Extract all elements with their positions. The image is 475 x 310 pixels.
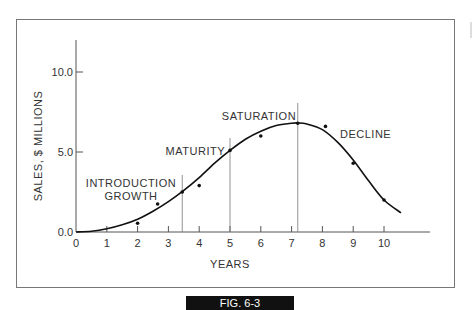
- y-tick-label: 0.0: [58, 226, 73, 238]
- y-tick-label: 5.0: [58, 146, 73, 158]
- data-point: [259, 134, 263, 138]
- life-cycle-chart: 0123456789100.05.010.0YEARSINTRODUCTIONG…: [0, 0, 475, 310]
- data-point: [228, 149, 232, 153]
- x-tick-label: 5: [227, 237, 233, 249]
- data-point: [382, 198, 386, 202]
- x-tick-label: 3: [165, 237, 171, 249]
- x-tick-label: 2: [135, 237, 141, 249]
- figure-caption: FIG. 6-3: [186, 296, 294, 310]
- x-tick-label: 7: [289, 237, 295, 249]
- x-tick-label: 1: [104, 237, 110, 249]
- stage-label-maturity: MATURITY: [166, 145, 226, 157]
- data-point: [324, 125, 328, 129]
- data-point: [197, 184, 201, 188]
- x-tick-label: 4: [196, 237, 202, 249]
- data-point: [296, 121, 300, 125]
- x-tick-label: 6: [258, 237, 264, 249]
- data-point: [180, 190, 184, 194]
- y-axis-label: SALES, $ MILLIONS: [32, 91, 44, 202]
- x-tick-label: 10: [378, 237, 390, 249]
- stage-label-saturation: SATURATION: [222, 110, 296, 122]
- stage-label-growth: GROWTH: [104, 190, 157, 202]
- data-point: [156, 202, 160, 206]
- x-axis-label: YEARS: [210, 258, 250, 270]
- x-tick-label: 8: [319, 237, 325, 249]
- x-tick-label: 0: [73, 237, 79, 249]
- data-point: [136, 221, 140, 225]
- data-point: [351, 161, 355, 165]
- y-tick-label: 10.0: [52, 66, 73, 78]
- stage-label-decline: DECLINE: [340, 128, 391, 140]
- x-tick-label: 9: [350, 237, 356, 249]
- stage-label-introduction: INTRODUCTION: [86, 177, 176, 189]
